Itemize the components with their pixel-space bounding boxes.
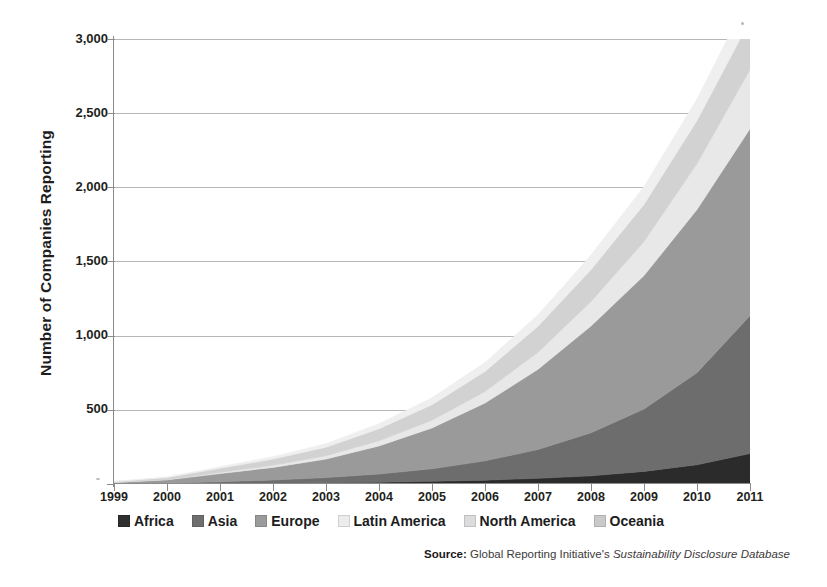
legend-label: Asia: [208, 513, 238, 529]
x-tick-2008: 2008: [565, 490, 617, 504]
chart-figure: Number of Companies Reporting 3,000 2,50…: [0, 0, 827, 587]
y-tickmark-500: [107, 410, 115, 411]
legend-item-oceania[interactable]: Oceania: [594, 513, 664, 529]
legend-swatch-icon: [464, 515, 476, 527]
x-tick-2010: 2010: [671, 490, 723, 504]
legend-label: Oceania: [610, 513, 664, 529]
y-tick-2500: 2,500: [54, 106, 108, 119]
legend-item-africa[interactable]: Africa: [118, 513, 174, 529]
x-tick-2009: 2009: [618, 490, 670, 504]
plot-area: [114, 39, 750, 484]
chart-legend: AfricaAsiaEuropeLatin AmericaNorth Ameri…: [118, 513, 664, 529]
legend-item-asia[interactable]: Asia: [192, 513, 238, 529]
x-tick-2004: 2004: [353, 490, 405, 504]
source-label: Source:: [424, 548, 467, 560]
y-tick-500: 500: [54, 402, 108, 415]
x-tick-2005: 2005: [406, 490, 458, 504]
y-tick-2000: 2,000: [54, 180, 108, 193]
legend-swatch-icon: [338, 515, 350, 527]
legend-label: Latin America: [354, 513, 446, 529]
x-tick-2001: 2001: [194, 490, 246, 504]
y-tick-3000: 3,000: [54, 32, 108, 45]
legend-item-europe[interactable]: Europe: [255, 513, 319, 529]
legend-swatch-icon: [594, 515, 606, 527]
x-tick-2011: 2011: [724, 490, 776, 504]
legend-item-north-america[interactable]: North America: [464, 513, 576, 529]
legend-label: Europe: [271, 513, 319, 529]
legend-item-latin-america[interactable]: Latin America: [338, 513, 446, 529]
y-tickmark-2000: [107, 187, 115, 188]
source-body: Global Reporting Initiative's: [470, 548, 610, 560]
scan-speck: [96, 478, 100, 480]
source-italic: Sustainability Disclosure Database: [613, 548, 790, 560]
stacked-area-series: [114, 39, 750, 484]
x-tick-1999: 1999: [88, 490, 140, 504]
legend-swatch-icon: [255, 515, 267, 527]
x-tick-2002: 2002: [247, 490, 299, 504]
y-tick-1500: 1,500: [54, 254, 108, 267]
legend-label: Africa: [134, 513, 174, 529]
source-note: Source: Global Reporting Initiative's Su…: [424, 548, 790, 560]
x-tick-2000: 2000: [141, 490, 193, 504]
x-tick-2006: 2006: [459, 490, 511, 504]
y-tick-1000: 1,000: [54, 328, 108, 341]
y-tickmark-1500: [107, 261, 115, 262]
y-tickmark-2500: [107, 113, 115, 114]
legend-swatch-icon: [192, 515, 204, 527]
x-tick-2003: 2003: [300, 490, 352, 504]
y-tickmark-3000: [107, 39, 115, 40]
x-tick-2007: 2007: [512, 490, 564, 504]
legend-swatch-icon: [118, 515, 130, 527]
scan-speck: [741, 22, 744, 25]
legend-label: North America: [480, 513, 576, 529]
y-tickmark-1000: [107, 336, 115, 337]
